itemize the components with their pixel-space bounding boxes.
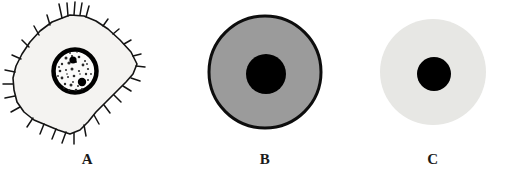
panel-c: C — [355, 0, 511, 179]
cell-a-nucleus — [54, 50, 97, 93]
panel-label-c: C — [355, 150, 511, 168]
panel-label-b: B — [175, 150, 355, 168]
panel-b: B — [175, 0, 355, 179]
cell-diagram-c — [355, 2, 511, 147]
panel-label-a: A — [0, 150, 175, 168]
figure-root: A B C — [0, 0, 511, 179]
cell-diagram-b — [175, 2, 355, 147]
cell-b-body — [209, 16, 321, 128]
cell-c-nucleus — [417, 57, 451, 91]
cell-b-nucleus — [246, 54, 286, 94]
cell-a-nucleolus-upper — [69, 56, 76, 63]
cell-diagram-a — [0, 2, 175, 147]
cell-a-nucleolus-lower — [78, 78, 86, 86]
cell-c-body — [380, 19, 486, 125]
panel-a: A — [0, 0, 175, 179]
